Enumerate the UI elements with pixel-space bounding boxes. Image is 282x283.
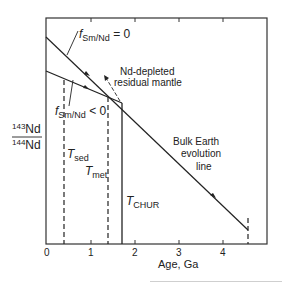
arrow-icon	[83, 85, 89, 89]
f-zero-label: fSm/Nd = 0	[79, 27, 131, 43]
arrow-icon	[84, 71, 90, 76]
bulk-label-1: Bulk Earth	[173, 136, 219, 147]
bulk-label-3: line	[196, 161, 212, 172]
depleted-label-2: residual mantle	[114, 77, 182, 88]
t-sed-label: Tsed	[67, 147, 89, 163]
bulk-label-2: evolution	[181, 148, 221, 159]
depleted-label-1: Nd-depleted	[120, 66, 174, 77]
x-tick-4: 4	[220, 247, 226, 258]
x-tick-0: 0	[44, 247, 50, 258]
divider	[150, 281, 282, 282]
y-label-denominator: 144Nd	[12, 138, 41, 152]
f-neg-label: fSm/Nd < 0	[55, 104, 107, 120]
x-tick-1: 1	[88, 247, 94, 258]
f-neg-leader	[69, 80, 73, 106]
f-zero-leader	[67, 31, 78, 55]
nd-evolution-diagram: fSm/Nd = 0 fSm/Nd < 0 Nd-depleted residu…	[0, 0, 282, 283]
t-chur-label: TCHUR	[126, 194, 160, 210]
bottom-ticks	[91, 240, 223, 244]
x-tick-2: 2	[132, 247, 138, 258]
x-axis-label: Age, Ga	[158, 258, 199, 270]
arrow-icon	[104, 75, 109, 81]
t-met-label: Tmet	[85, 164, 108, 180]
x-tick-3: 3	[176, 247, 182, 258]
y-label-numerator: 143Nd	[12, 122, 41, 136]
plot-frame	[46, 18, 267, 244]
